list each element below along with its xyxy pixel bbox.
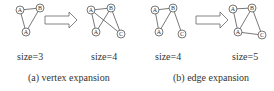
svg-text:A: A xyxy=(231,6,236,12)
size-label-b-after: size=5 xyxy=(232,51,258,62)
graph-node: B xyxy=(248,4,256,12)
graph-node: C xyxy=(117,30,125,38)
graph-node: A xyxy=(151,6,159,14)
graph-node: A xyxy=(16,6,24,14)
graph-a-before: ABA xyxy=(16,4,44,36)
svg-text:A: A xyxy=(24,29,29,35)
expansion-arrow-icon-b xyxy=(196,12,228,28)
size-label-b-before: size=4 xyxy=(155,51,181,62)
expansion-arrow-icon-a xyxy=(45,12,77,28)
svg-text:A: A xyxy=(18,7,23,13)
svg-text:B: B xyxy=(109,5,113,11)
graph-node: A xyxy=(92,28,100,36)
size-label-a-after: size=4 xyxy=(91,51,117,62)
graph-b-after: ABAC xyxy=(229,4,266,39)
graph-node: A xyxy=(155,28,163,36)
arrows-layer xyxy=(45,12,228,28)
svg-text:A: A xyxy=(153,7,158,13)
graph-node: A xyxy=(87,6,95,14)
graph-a-after: ABAC xyxy=(87,4,125,38)
graph-node: B xyxy=(36,4,44,12)
caption-edge-expansion: (b) edge expansion xyxy=(173,72,249,83)
caption-vertex-expansion: (a) vertex expansion xyxy=(28,72,110,83)
graph-node: B xyxy=(169,4,177,12)
graph-node: A xyxy=(229,5,237,13)
graph-node: C xyxy=(178,30,186,38)
svg-text:A: A xyxy=(157,29,162,35)
graph-node: A xyxy=(22,28,30,36)
graph-node: C xyxy=(258,31,266,39)
svg-text:B: B xyxy=(171,5,175,11)
svg-text:B: B xyxy=(250,5,254,11)
svg-text:C: C xyxy=(119,31,123,37)
graph-node: A xyxy=(234,28,242,36)
size-label-a-before: size=3 xyxy=(17,51,43,62)
svg-text:B: B xyxy=(38,5,42,11)
graph-b-before: ABAC xyxy=(151,4,186,38)
svg-text:A: A xyxy=(94,29,99,35)
graph-node: B xyxy=(107,4,115,12)
svg-text:A: A xyxy=(236,29,241,35)
svg-text:A: A xyxy=(89,7,94,13)
svg-text:C: C xyxy=(180,31,184,37)
svg-text:C: C xyxy=(260,32,264,38)
